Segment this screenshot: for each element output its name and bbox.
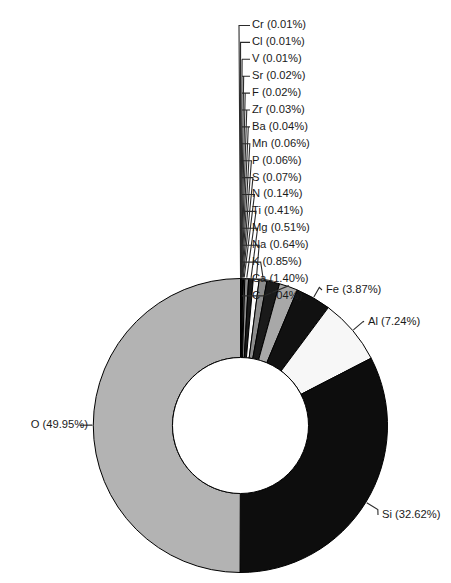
slice-label-k: K (0.85%) (252, 255, 302, 267)
wedge-group (93, 278, 387, 572)
slice-label-cl: Cl (0.01%) (252, 35, 305, 47)
leader-line-al (353, 321, 364, 329)
slice-label-fe: Fe (3.87%) (326, 283, 382, 295)
slice-label-mn: Mn (0.06%) (252, 137, 310, 149)
donut-chart-canvas: Cr (0.01%)Cl (0.01%)V (0.01%)Sr (0.02%)F… (0, 0, 451, 583)
slice-label-s: S (0.07%) (252, 171, 302, 183)
slice-label-na: Na (0.64%) (252, 238, 309, 250)
leader-line-fe (314, 287, 322, 297)
slice-label-cr: Cr (0.01%) (252, 18, 306, 30)
slice-label-ca: Ca (1.40%) (252, 272, 309, 284)
slice-label-v: V (0.01%) (252, 52, 302, 64)
leader-line-si (367, 503, 378, 515)
donut-hole (173, 358, 309, 494)
slice-label-c: C (2.04%) (252, 289, 303, 301)
slice-label-f: F (0.02%) (252, 86, 301, 98)
slice-label-al: Al (7.24%) (368, 315, 421, 327)
slice-label-sr: Sr (0.02%) (252, 69, 306, 81)
slice-label-zr: Zr (0.03%) (252, 103, 305, 115)
slice-label-mg: Mg (0.51%) (252, 221, 310, 233)
slice-label-si: Si (32.62%) (382, 508, 441, 520)
slice-label-n: N (0.14%) (252, 187, 303, 199)
slice-label-o: O (49.95%) (31, 418, 88, 430)
slice-label-p: P (0.06%) (252, 154, 302, 166)
donut-chart: Cr (0.01%)Cl (0.01%)V (0.01%)Sr (0.02%)F… (0, 0, 451, 583)
slice-label-ba: Ba (0.04%) (252, 120, 308, 132)
slice-label-ti: Ti (0.41%) (252, 204, 303, 216)
